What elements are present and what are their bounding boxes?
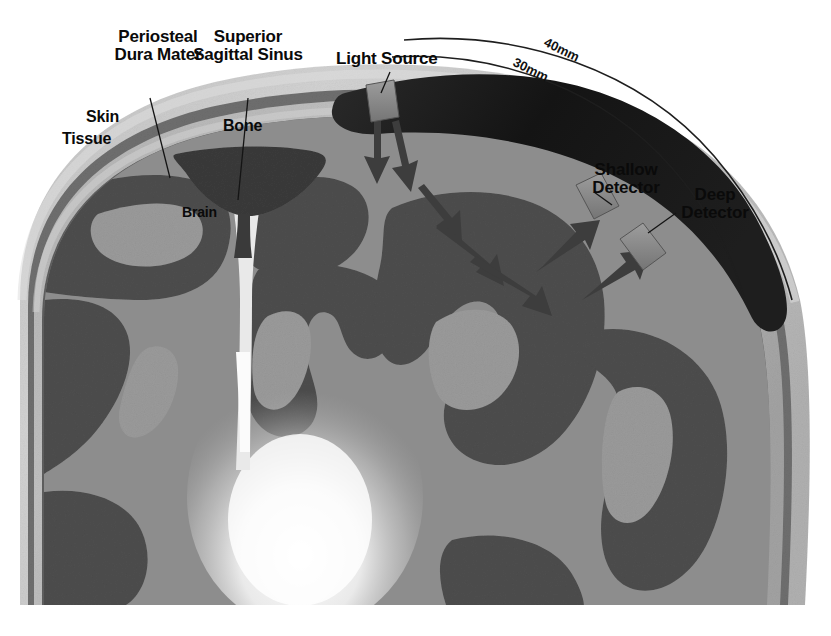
label-bone: Bone <box>223 118 262 135</box>
nirs-head-diagram: Skin Tissue Periosteal Dura Mater Superi… <box>0 0 831 636</box>
label-tissue: Tissue <box>62 131 111 148</box>
light-source-block[interactable] <box>366 80 399 122</box>
head-cross-section-illustration <box>0 0 831 636</box>
label-skin: Skin <box>86 109 119 126</box>
label-superior-sagittal-sinus: Superior Sagittal Sinus <box>186 28 310 63</box>
label-brain: Brain <box>182 205 217 220</box>
label-shallow-detector: Shallow Detector <box>578 161 674 196</box>
label-deep-detector: Deep Detector <box>672 186 758 221</box>
photon-glow <box>187 364 423 630</box>
label-light-source: Light Source <box>336 50 438 68</box>
